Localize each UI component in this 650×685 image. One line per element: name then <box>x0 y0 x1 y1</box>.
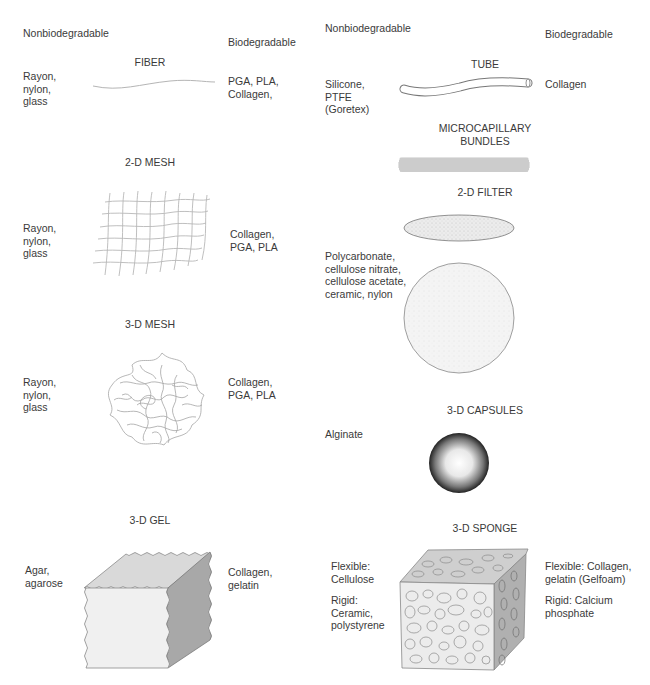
capsule-sphere-icon <box>428 432 490 494</box>
2d-filter-nonbiodegradable: Polycarbonate, cellulose nitrate, cellul… <box>325 250 406 300</box>
microcapillary-title: MICROCAPILLARY BUNDLES <box>420 122 550 147</box>
2d-mesh-biodegradable: Collagen, PGA, PLA <box>230 228 278 253</box>
3d-mesh-nonbiodegradable: Rayon, nylon, glass <box>23 376 56 414</box>
right-header-biodegradable: Biodegradable <box>545 28 613 41</box>
sponge-cube-icon <box>398 546 530 672</box>
gel-cube-icon <box>82 550 212 675</box>
tube-icon <box>400 78 532 100</box>
sponge-biodegradable-flexible: Flexible: Collagen, gelatin (Gelfoam) <box>545 560 631 585</box>
2d-filter-title: 2-D FILTER <box>440 186 530 199</box>
3d-mesh-biodegradable: Collagen, PGA, PLA <box>228 376 276 401</box>
2d-mesh-icon <box>90 190 215 280</box>
fiber-title: FIBER <box>120 56 180 69</box>
right-header-nonbiodegradable: Nonbiodegradable <box>325 22 411 35</box>
3d-capsules-nonbiodegradable: Alginate <box>325 428 363 441</box>
microcapillary-bundle-icon <box>397 154 533 176</box>
3d-gel-biodegradable: Collagen, gelatin <box>228 566 272 591</box>
tube-nonbiodegradable: Silicone, PTFE (Goretex) <box>325 78 369 116</box>
3d-gel-title: 3-D GEL <box>120 514 180 527</box>
fiber-icon <box>90 74 220 94</box>
sponge-nonbiodegradable-rigid: Rigid: Ceramic, polystyrene <box>331 594 385 632</box>
fiber-biodegradable: PGA, PLA, Collagen, <box>228 75 279 100</box>
3d-gel-nonbiodegradable: Agar, agarose <box>25 564 63 589</box>
2d-mesh-nonbiodegradable: Rayon, nylon, glass <box>23 222 56 260</box>
filter-disc-icon <box>403 214 518 374</box>
2d-mesh-title: 2-D MESH <box>110 156 190 169</box>
3d-mesh-icon <box>92 345 217 455</box>
sponge-nonbiodegradable-flexible: Flexible: Cellulose <box>331 560 374 585</box>
3d-mesh-title: 3-D MESH <box>110 318 190 331</box>
3d-capsules-title: 3-D CAPSULES <box>420 404 550 417</box>
tube-biodegradable: Collagen <box>545 78 586 91</box>
sponge-biodegradable-rigid: Rigid: Calcium phosphate <box>545 594 613 619</box>
tube-title: TUBE <box>455 58 515 71</box>
left-header-nonbiodegradable: Nonbiodegradable <box>23 27 109 40</box>
fiber-nonbiodegradable: Rayon, nylon, glass <box>23 70 56 108</box>
left-header-biodegradable: Biodegradable <box>228 36 296 49</box>
3d-sponge-title: 3-D SPONGE <box>435 522 535 535</box>
